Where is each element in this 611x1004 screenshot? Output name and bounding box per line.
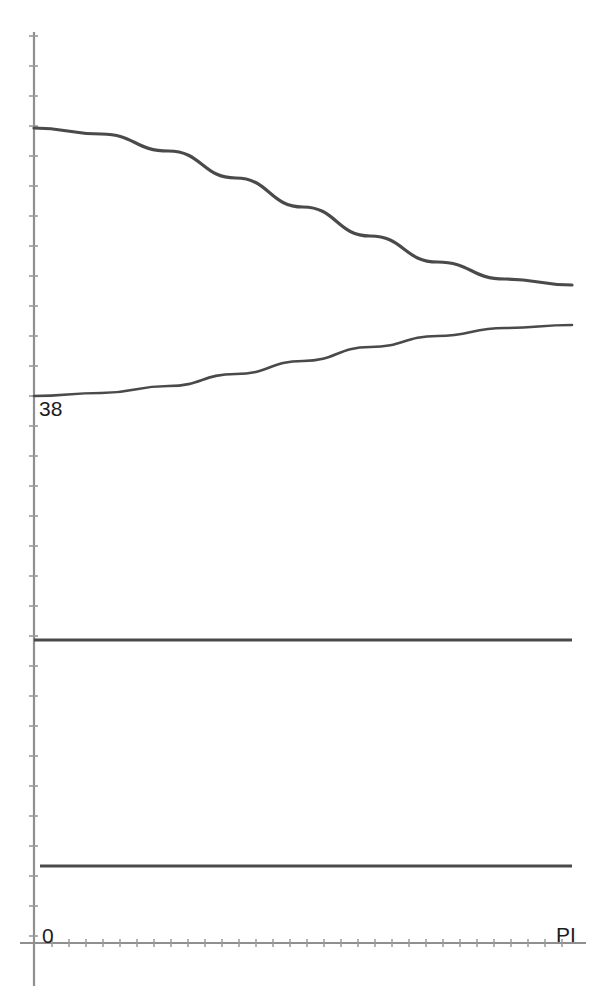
series-rising-curve xyxy=(34,325,572,396)
x-tick-label-pi: PI xyxy=(556,924,576,945)
x-tick-label-zero: 0 xyxy=(42,925,54,946)
y-tick-label-38: 38 xyxy=(39,398,62,419)
series-descending-curve xyxy=(34,128,572,285)
plot-area xyxy=(0,0,611,1004)
chart-canvas: 38 0 PI xyxy=(0,0,611,1004)
